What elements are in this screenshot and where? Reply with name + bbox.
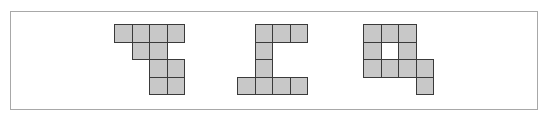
grid-cell: [398, 42, 417, 60]
grid-cell: [398, 24, 417, 43]
grid-cell: [416, 59, 434, 78]
grid-cell: [255, 59, 273, 78]
grid-cell: [149, 42, 168, 60]
grid-cell: [272, 77, 291, 95]
grid-cell: [290, 77, 308, 95]
grid-cell: [398, 59, 417, 78]
grid-cell: [255, 42, 273, 60]
grid-cell: [237, 77, 256, 95]
grid-cell: [381, 24, 399, 43]
grid-cell: [114, 24, 133, 43]
grid-cell: [167, 59, 185, 78]
grid-cell: [416, 77, 434, 95]
grid-cell: [132, 24, 150, 43]
grid-cell: [132, 42, 150, 60]
grid-cell: [167, 77, 185, 95]
grid-cell: [149, 77, 168, 95]
grid-cell: [272, 24, 291, 43]
grid-cell: [363, 59, 382, 78]
grid-cell: [255, 77, 273, 95]
grid-cell: [149, 24, 168, 43]
grid-cell: [363, 42, 382, 60]
grid-cell: [167, 24, 185, 43]
grid-cell: [255, 24, 273, 43]
grid-cell: [290, 24, 308, 43]
grid-cell: [381, 59, 399, 78]
grid-cell: [149, 59, 168, 78]
grid-cell: [363, 24, 382, 43]
